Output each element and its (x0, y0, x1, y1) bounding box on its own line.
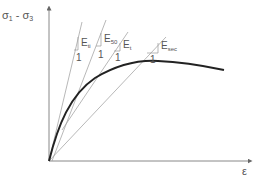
slope-e-ti: 1 (76, 52, 82, 63)
y-axis-label: σ1 - σ3 (2, 9, 33, 22)
slope-e-50: 1 (98, 49, 104, 60)
label-e-sec: Esec (161, 40, 177, 52)
slope-e-t: 1 (115, 52, 121, 63)
label-e-ti: Eti (81, 37, 91, 49)
slope-e-sec: 1 (150, 54, 156, 65)
line-e-sec (49, 37, 166, 161)
label-e-50: E50 (104, 33, 118, 45)
stress-strain-diagram: σ1 - σ3 ε Eti 1 E50 1 Et 1 Esec 1 (0, 0, 263, 180)
x-axis-label: ε (242, 165, 247, 177)
line-e-t (62, 32, 128, 130)
label-e-t: Et (123, 39, 132, 51)
line-e-50 (52, 20, 106, 161)
